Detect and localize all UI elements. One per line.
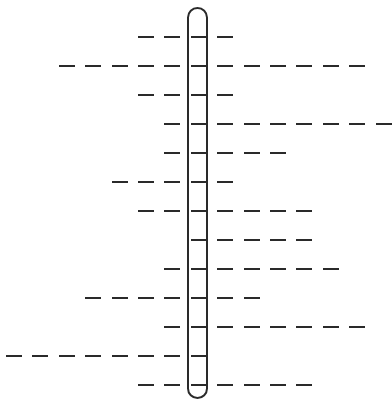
letter-blank <box>323 268 339 270</box>
letter-blank <box>244 384 260 386</box>
letter-blank <box>244 239 260 241</box>
letter-blank <box>6 355 22 357</box>
letter-blank-highlighted <box>191 36 207 38</box>
letter-blank <box>85 297 101 299</box>
letter-blank <box>296 239 312 241</box>
letter-blank <box>217 152 233 154</box>
letter-blank <box>138 65 154 67</box>
letter-blank <box>138 297 154 299</box>
letter-blank <box>349 65 365 67</box>
letter-blank <box>244 326 260 328</box>
letter-blank <box>217 210 233 212</box>
letter-blank <box>112 65 128 67</box>
letter-blank <box>217 36 233 38</box>
letter-blank <box>164 123 180 125</box>
letter-blank <box>244 268 260 270</box>
letter-blank-highlighted <box>191 65 207 67</box>
letter-blank <box>217 181 233 183</box>
letter-blank <box>323 326 339 328</box>
letter-blank <box>376 123 392 125</box>
letter-blank <box>59 355 75 357</box>
letter-blank <box>164 355 180 357</box>
letter-blank <box>164 152 180 154</box>
letter-blank <box>112 355 128 357</box>
letter-blank <box>112 181 128 183</box>
letter-blank <box>244 152 260 154</box>
letter-blank <box>270 326 286 328</box>
letter-blank <box>270 384 286 386</box>
letter-blank <box>349 123 365 125</box>
letter-blank-highlighted <box>191 210 207 212</box>
letter-blank <box>323 65 339 67</box>
letter-blank <box>59 65 75 67</box>
letter-blank <box>164 297 180 299</box>
letter-blank <box>296 65 312 67</box>
letter-blank <box>323 123 339 125</box>
letter-blank <box>217 65 233 67</box>
letter-blank <box>85 355 101 357</box>
letter-blank <box>164 181 180 183</box>
letter-blank <box>244 123 260 125</box>
letter-blank-highlighted <box>191 94 207 96</box>
letter-blank <box>164 384 180 386</box>
letter-blank <box>32 355 48 357</box>
letter-blank <box>296 123 312 125</box>
letter-blank <box>85 65 101 67</box>
letter-blank <box>112 297 128 299</box>
letter-blank <box>164 326 180 328</box>
letter-blank-highlighted <box>191 268 207 270</box>
letter-blank <box>270 123 286 125</box>
letter-blank <box>164 36 180 38</box>
letter-blank <box>164 210 180 212</box>
letter-blank-highlighted <box>191 123 207 125</box>
letter-blank <box>217 239 233 241</box>
letter-blank <box>164 94 180 96</box>
letter-blank <box>244 65 260 67</box>
letter-blank <box>217 123 233 125</box>
letter-blank <box>138 355 154 357</box>
letter-blank-highlighted <box>191 239 207 241</box>
letter-blank-highlighted <box>191 384 207 386</box>
letter-blank <box>296 326 312 328</box>
word-puzzle-grid <box>0 0 392 413</box>
letter-blank <box>217 268 233 270</box>
letter-blank <box>217 384 233 386</box>
letter-blank <box>138 94 154 96</box>
letter-blank <box>164 65 180 67</box>
letter-blank <box>296 384 312 386</box>
letter-blank <box>296 210 312 212</box>
letter-blank <box>270 152 286 154</box>
letter-blank-highlighted <box>191 181 207 183</box>
letter-blank <box>217 326 233 328</box>
letter-blank <box>349 326 365 328</box>
letter-blank <box>244 297 260 299</box>
letter-blank <box>270 239 286 241</box>
letter-blank <box>296 268 312 270</box>
letter-blank <box>138 384 154 386</box>
letter-blank <box>164 268 180 270</box>
letter-blank <box>270 65 286 67</box>
letter-blank <box>217 297 233 299</box>
letter-blank <box>138 210 154 212</box>
letter-blank <box>138 181 154 183</box>
letter-blank <box>138 36 154 38</box>
letter-blank-highlighted <box>191 326 207 328</box>
letter-blank-highlighted <box>191 297 207 299</box>
letter-blank <box>270 268 286 270</box>
letter-blank-highlighted <box>191 152 207 154</box>
letter-blank <box>244 210 260 212</box>
letter-blank <box>217 94 233 96</box>
letter-blank <box>270 210 286 212</box>
letter-blank-highlighted <box>191 355 207 357</box>
